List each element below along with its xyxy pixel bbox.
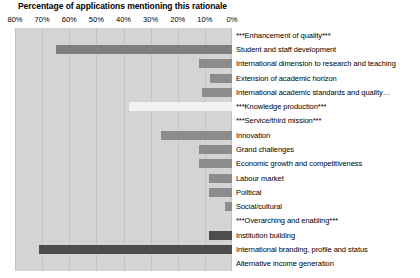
category-label: Economic growth and competitiveness [236,159,362,168]
plot-area [15,28,232,271]
bar-chart: Percentage of applications mentioning th… [0,0,420,278]
category-label: Grand challenges [236,145,294,154]
category-label: International dimension to research and … [236,59,396,68]
x-tick-label: 30% [143,15,158,24]
category-label: Innovation [236,131,270,140]
bar-row [15,128,232,142]
x-tick-label: 50% [89,15,104,24]
bar [56,45,232,54]
bar-row [15,214,232,228]
bar [161,131,232,140]
x-tick-label: 80% [7,15,22,24]
bar [225,202,232,211]
bar-row [15,99,232,113]
category-label: International branding, profile and stat… [236,245,368,254]
bar-row [15,257,232,271]
bar-row [15,200,232,214]
category-label: Extension of academic horizon [236,74,337,83]
bar [39,245,232,254]
category-label: ***Knowledge production*** [236,102,326,111]
x-tick-label: 60% [62,15,77,24]
bar [199,59,232,68]
category-label: ***Enhancement of quality*** [236,31,331,40]
bar-row [15,114,232,128]
category-label: ***Overarching and enabling*** [236,216,338,225]
category-labels: ***Enhancement of quality***Student and … [236,28,420,271]
category-label: Social/cultural [236,202,282,211]
bar-row [15,42,232,56]
bar [199,159,232,168]
bar-row [15,157,232,171]
bar [202,88,232,97]
bar [129,102,232,111]
category-label: Political [236,188,261,197]
category-label: Student and staff development [236,45,336,54]
bar-row [15,71,232,85]
category-label: International academic standards and qua… [236,88,390,97]
bar-row [15,242,232,256]
x-tick-label: 0% [227,15,238,24]
chart-title: Percentage of applications mentioning th… [18,1,227,11]
bar [199,145,232,154]
bar-row [15,85,232,99]
category-label: Labour market [236,174,284,183]
category-label: ***Service/third mission*** [236,116,321,125]
x-tick-label: 10% [197,15,212,24]
bar-row [15,228,232,242]
bar-row [15,185,232,199]
bar-row [15,57,232,71]
bar [209,231,232,240]
x-tick-label: 70% [35,15,50,24]
bar-row [15,28,232,42]
category-label: Institution building [236,231,295,240]
category-label: Alternative income generation [236,259,334,268]
x-tick-label: 20% [170,15,185,24]
x-tick-label: 40% [116,15,131,24]
bar-row [15,171,232,185]
x-axis: 80%70%60%50%40%30%20%10%0% [0,15,240,26]
bar [209,188,232,197]
bar [209,174,232,183]
bar-row [15,142,232,156]
bar [210,74,232,83]
